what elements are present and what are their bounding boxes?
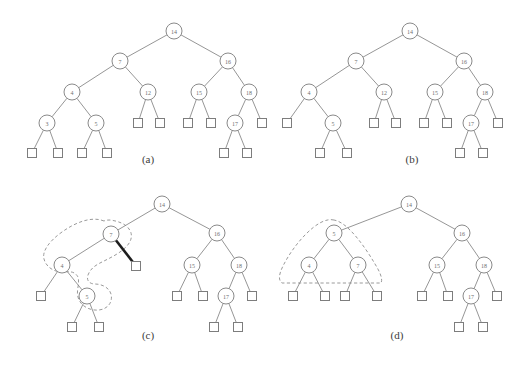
tree-figure: 1471641215183517(a)147164121518517(b)147… (0, 0, 532, 369)
panel-a: 1471641215183517(a) (28, 23, 267, 166)
tree-leaf-node (54, 149, 63, 158)
tree-node: 17 (227, 115, 243, 131)
tree-edge (440, 67, 458, 86)
tree-edge (362, 272, 374, 292)
tree-leaf-node (156, 119, 165, 128)
tree-leaf-node (37, 292, 46, 301)
tree-edge (442, 239, 457, 258)
tree-edge (295, 272, 305, 292)
tree-node: 15 (184, 257, 200, 273)
tree-node: 15 (427, 84, 443, 100)
tree-leaf-node (418, 292, 427, 301)
tree-edge (34, 130, 43, 149)
tree-edge (252, 99, 260, 118)
tree-edge (125, 67, 142, 86)
tree-leaf-node (392, 119, 401, 128)
tree-edge (216, 303, 223, 322)
tree-leaf-node (444, 292, 453, 301)
tree-node: 18 (476, 257, 492, 273)
tree-leaf-node (134, 119, 143, 128)
tree-edge (347, 272, 355, 291)
tree-edge (202, 99, 209, 118)
tree-node-label: 5 (86, 294, 89, 300)
tree-leaf-node (373, 292, 382, 301)
tree-node-label: 17 (468, 294, 474, 300)
tree-leaf-node (479, 149, 488, 158)
tree-leaf-node (343, 149, 352, 158)
tree-node: 14 (402, 23, 418, 39)
tree-node: 4 (64, 84, 80, 100)
tree-edge (204, 67, 222, 86)
tree-node: 12 (140, 84, 156, 100)
tree-node-label: 14 (407, 29, 413, 35)
tree-leaf-node (493, 292, 502, 301)
tree-node-label: 16 (225, 59, 231, 65)
tree-edge (440, 273, 447, 292)
tree-node-label: 5 (333, 231, 336, 237)
tree-edge (118, 208, 155, 230)
tree-edge (195, 273, 202, 292)
tree-edge (79, 65, 114, 87)
tree-edge (438, 99, 445, 118)
tree-leaf-node (199, 292, 208, 301)
tree-node-label: 16 (214, 231, 220, 237)
panel-b: 147164121518517(b) (283, 23, 503, 166)
tree-edge (316, 65, 350, 87)
tree-leaf-node (370, 119, 379, 128)
tree-edge (474, 303, 481, 322)
tree-node-label: 14 (406, 202, 412, 208)
tree-node: 4 (301, 84, 317, 100)
tree-leaf-node (420, 119, 429, 128)
tree-node-label: 7 (357, 263, 360, 269)
tree-node-label: 15 (434, 263, 440, 269)
tree-edge (341, 207, 401, 230)
tree-edge (229, 272, 236, 288)
tree-leaf-node (28, 149, 37, 158)
tree-node-label: 4 (61, 263, 64, 269)
tree-edge (197, 239, 212, 258)
tree-node-label: 4 (308, 263, 311, 269)
tree-edge (242, 272, 250, 291)
tree-leaf-node (289, 292, 298, 301)
tree-node-label: 17 (468, 121, 474, 127)
tree-node-label: 18 (482, 90, 488, 96)
tree-edge (474, 99, 481, 115)
tree-edge (467, 240, 480, 259)
tree-node: 17 (463, 288, 479, 304)
tree-edge (77, 98, 91, 116)
tree-edge (322, 130, 330, 149)
tree-node-label: 15 (432, 90, 438, 96)
tree-leaf-node (78, 149, 87, 158)
tree-edge (226, 131, 233, 149)
tree-edge (90, 303, 97, 322)
tree-leaf-node (243, 149, 252, 158)
tree-node: 18 (231, 257, 247, 273)
tree-node: 17 (218, 288, 234, 304)
tree-edge (139, 100, 145, 119)
tree-edge (232, 68, 244, 86)
tree-node: 14 (401, 196, 417, 212)
tree-leaf-node (103, 149, 112, 158)
tree-edge (181, 35, 221, 57)
tree-edge (84, 130, 93, 149)
tree-leaf-node (341, 292, 350, 301)
tree-edge (416, 208, 455, 229)
tree-leaf-node (283, 119, 292, 128)
panel-caption-a: (a) (142, 153, 155, 166)
tree-node: 7 (350, 257, 366, 273)
tree-leaf-node (207, 119, 216, 128)
tree-node-label: 12 (381, 90, 387, 96)
tree-leaf-node (248, 292, 257, 301)
tree-node-label: 17 (232, 121, 238, 127)
tree-node: 3 (39, 115, 55, 131)
tree-node: 16 (209, 225, 225, 241)
tree-leaf-node (316, 149, 325, 158)
tree-node-label: 7 (119, 59, 122, 65)
tree-edge (474, 130, 481, 148)
tree-leaf-node (456, 149, 465, 158)
tree-node: 5 (88, 115, 104, 131)
tree-node: 7 (348, 53, 364, 69)
tree-edge (69, 238, 104, 260)
tree-node: 16 (454, 225, 470, 241)
tree-edge (190, 100, 197, 119)
